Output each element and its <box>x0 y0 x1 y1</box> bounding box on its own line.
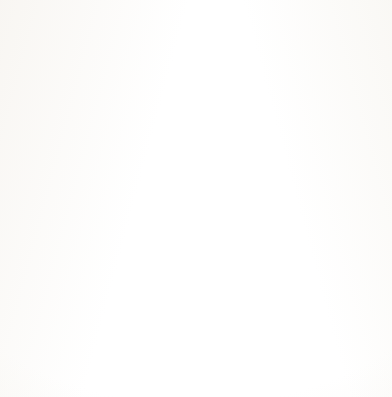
y-tick-label-10: 10 <box>183 25 192 34</box>
x-axis-line <box>18 200 374 201</box>
x-tick-label-5: 5 <box>281 204 286 213</box>
minor-gridlines <box>0 0 392 397</box>
paper-texture-overlay <box>0 0 392 397</box>
major-gridlines <box>0 0 392 397</box>
y-axis-line <box>195 14 196 382</box>
x-tick-label-10: 10 <box>364 204 373 213</box>
scan-artifact-mark <box>313 328 320 329</box>
x-tick-label--10: -10 <box>18 204 30 213</box>
y-tick-label-5: 5 <box>187 111 192 120</box>
y-tick-label--5: -5 <box>184 283 192 292</box>
graph-paper-sheet: -10 -5 0 5 10 10 5 -5 -10 <box>0 0 392 397</box>
scan-artifact-mark <box>316 328 317 335</box>
y-tick-label--10: -10 <box>180 369 192 378</box>
x-tick-label--5: -5 <box>106 204 114 213</box>
x-tick-label-0: 0 <box>189 204 194 213</box>
